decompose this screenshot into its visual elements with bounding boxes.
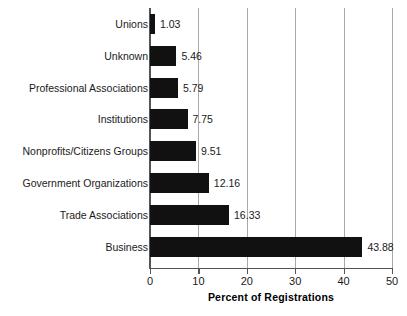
x-tick-label-40: 40 bbox=[324, 275, 364, 288]
x-tick-30 bbox=[295, 269, 296, 274]
bar-value-label: 43.88 bbox=[367, 240, 393, 254]
x-tick-label-0: 0 bbox=[130, 275, 170, 288]
bar-value-label: 1.03 bbox=[160, 17, 180, 31]
x-tick-50 bbox=[392, 269, 393, 274]
bar-row[interactable]: 7.75 bbox=[150, 109, 392, 129]
bar-row[interactable]: 1.03 bbox=[150, 14, 392, 34]
x-tick-label-30: 30 bbox=[275, 275, 315, 288]
bar-row[interactable]: 16.33 bbox=[150, 205, 392, 225]
bar-row[interactable]: 9.51 bbox=[150, 141, 392, 161]
category-label-nonprofits-citizens-groups: Nonprofits/Citizens Groups bbox=[23, 144, 148, 158]
category-label-business: Business bbox=[105, 240, 148, 254]
bar-unknown[interactable] bbox=[150, 46, 176, 66]
gridline-50 bbox=[392, 8, 393, 268]
category-label-unions: Unions bbox=[115, 17, 148, 31]
category-label-trade-associations: Trade Associations bbox=[60, 208, 148, 222]
bar-government-organizations[interactable] bbox=[150, 173, 209, 193]
x-axis-line bbox=[149, 268, 393, 270]
bar-value-label: 9.51 bbox=[201, 144, 221, 158]
x-axis-title: Percent of Registrations bbox=[150, 291, 392, 303]
bar-unions[interactable] bbox=[150, 14, 155, 34]
x-tick-label-50: 50 bbox=[372, 275, 407, 288]
bar-value-label: 12.16 bbox=[214, 176, 240, 190]
bar-value-label: 5.46 bbox=[181, 49, 201, 63]
bar-value-label: 16.33 bbox=[234, 208, 260, 222]
bar-nonprofits-citizens-groups[interactable] bbox=[150, 141, 196, 161]
bar-trade-associations[interactable] bbox=[150, 205, 229, 225]
x-tick-20 bbox=[247, 269, 248, 274]
category-label-unknown: Unknown bbox=[104, 49, 148, 63]
bar-business[interactable] bbox=[150, 237, 362, 257]
bar-value-label: 5.79 bbox=[183, 81, 203, 95]
bar-row[interactable]: 43.88 bbox=[150, 237, 392, 257]
x-tick-label-20: 20 bbox=[227, 275, 267, 288]
category-label-government-organizations: Government Organizations bbox=[23, 176, 148, 190]
category-label-professional-associations: Professional Associations bbox=[29, 81, 148, 95]
bar-row[interactable]: 5.79 bbox=[150, 78, 392, 98]
x-tick-40 bbox=[344, 269, 345, 274]
x-tick-0 bbox=[150, 269, 151, 274]
x-tick-label-10: 10 bbox=[178, 275, 218, 288]
bar-chart: 01020304050 1.035.465.797.759.5112.1616.… bbox=[0, 0, 407, 316]
x-tick-10 bbox=[198, 269, 199, 274]
bar-value-label: 7.75 bbox=[193, 112, 213, 126]
bar-institutions[interactable] bbox=[150, 109, 188, 129]
bar-professional-associations[interactable] bbox=[150, 78, 178, 98]
bar-row[interactable]: 12.16 bbox=[150, 173, 392, 193]
bar-row[interactable]: 5.46 bbox=[150, 46, 392, 66]
category-label-institutions: Institutions bbox=[98, 112, 148, 126]
